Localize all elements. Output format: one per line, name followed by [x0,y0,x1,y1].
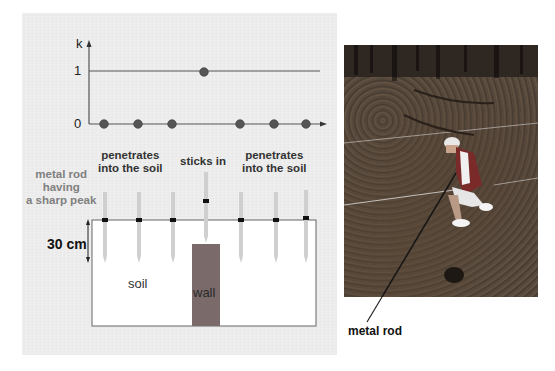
sticks-in-label: sticks in [180,155,226,168]
data-point [200,68,209,77]
metal-rod-callout-label: metal rod [348,324,402,338]
left-penetrates-label: penetrates into the soil [98,149,163,175]
k-graph [87,40,328,128]
y-axis-label: k [76,36,83,51]
rod-marker [303,216,309,220]
field-photo [344,45,538,297]
rod-marker [203,199,209,203]
y-tick-1: 1 [74,63,81,78]
y-axis-arrow-icon [87,40,92,47]
data-point [168,120,177,129]
x-axis-arrow-icon [320,122,327,127]
rod-marker [136,218,142,222]
rod-marker [170,218,176,222]
soil-label: soil [128,276,148,291]
data-point [134,120,143,129]
rod-marker [238,218,244,222]
rod-description-label: metal rod having a sharp peak [26,168,96,207]
rod-marker [273,218,279,222]
data-point [270,120,279,129]
data-point [302,120,311,129]
wall-label: wall [193,285,215,300]
y-tick-0: 0 [74,116,81,131]
data-point [100,120,109,129]
depth-label: 30 cm [47,236,87,252]
photo-scene [344,45,538,297]
right-penetrates-label: penetrates into the soil [242,149,307,175]
data-point [236,120,245,129]
rod-marker [102,218,108,222]
